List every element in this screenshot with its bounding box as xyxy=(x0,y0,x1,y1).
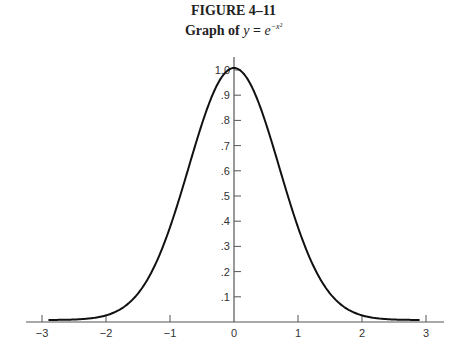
x-tick-label: −3 xyxy=(36,327,49,339)
x-tick-label: 3 xyxy=(423,327,429,339)
x-tick-label: 0 xyxy=(231,327,237,339)
x-tick-label: 2 xyxy=(359,327,365,339)
y-tick-label: .8 xyxy=(221,114,230,126)
y-tick-label: .1 xyxy=(221,291,230,303)
x-tick-label: −1 xyxy=(164,327,177,339)
y-tick-label: .7 xyxy=(221,140,230,152)
x-tick-label: −2 xyxy=(100,327,113,339)
axes: −3−2−10123.1.2.3.4.5.6.7.8.91.0 xyxy=(26,57,444,339)
y-tick-label: .6 xyxy=(221,165,230,177)
x-tick-label: 1 xyxy=(295,327,301,339)
y-tick-label: .4 xyxy=(221,215,230,227)
y-tick-label: .9 xyxy=(221,89,230,101)
gaussian-chart: −3−2−10123.1.2.3.4.5.6.7.8.91.0 xyxy=(0,0,467,354)
y-tick-label: .5 xyxy=(221,190,230,202)
y-tick-label: .2 xyxy=(221,266,230,278)
y-tick-label: .3 xyxy=(221,240,230,252)
